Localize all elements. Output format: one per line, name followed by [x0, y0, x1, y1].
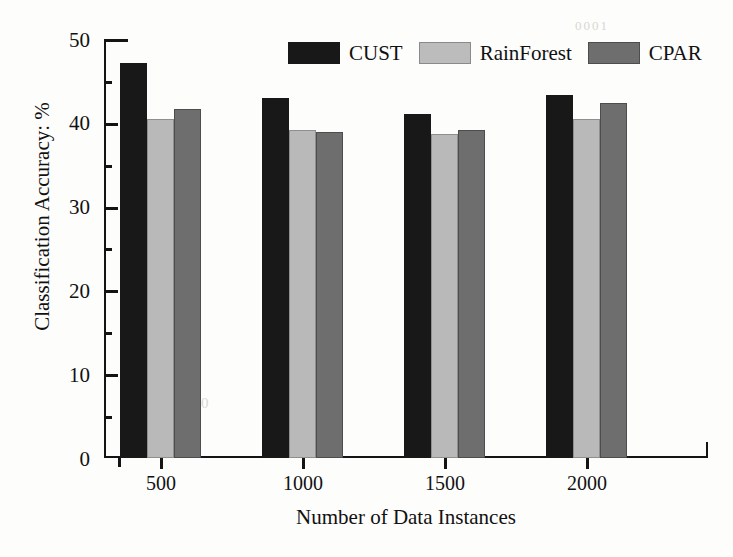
x-tick-1500	[444, 458, 447, 469]
x-tick-label-500: 500	[116, 472, 206, 495]
x-tick-label-2000: 2000	[542, 472, 632, 495]
legend-label-rainforest: RainForest	[480, 41, 572, 66]
bar-cust-1500	[404, 114, 431, 458]
bar-cpar-2000	[600, 103, 627, 458]
scan-artifact-top-right: 0001	[575, 18, 609, 34]
y-tick-label-0: 0	[30, 449, 90, 470]
chart-page: 0001 000 Classification Accuracy: % 50 4…	[0, 0, 733, 557]
bar-rainforest-500	[147, 119, 174, 458]
bar-rainforest-2000	[573, 119, 600, 458]
bar-rainforest-1500	[431, 134, 458, 458]
bar-rainforest-1000	[289, 130, 316, 459]
bar-cust-500	[120, 63, 147, 459]
legend-entry-cust: CUST	[288, 41, 403, 66]
legend-swatch-cust-icon	[288, 42, 340, 64]
bar-cpar-500	[174, 109, 201, 458]
legend-label-cust: CUST	[349, 41, 403, 66]
x-tick-2000	[586, 458, 589, 469]
legend-swatch-cpar-icon	[588, 42, 640, 64]
bars-layer	[104, 39, 708, 458]
x-tick-origin	[118, 458, 121, 467]
legend-entry-cpar: CPAR	[588, 41, 702, 66]
x-tick-500	[160, 458, 163, 469]
legend-entry-rainforest: RainForest	[419, 41, 572, 66]
bar-cpar-1500	[458, 130, 485, 459]
y-tick-label-40: 40	[30, 113, 90, 134]
y-tick-label-10: 10	[30, 365, 90, 386]
x-tick-label-1000: 1000	[258, 472, 348, 495]
bar-cust-1000	[262, 98, 289, 458]
y-tick-label-50: 50	[30, 30, 90, 51]
y-tick-label-20: 20	[30, 281, 90, 302]
x-axis-title: Number of Data Instances	[104, 505, 708, 530]
legend-label-cpar: CPAR	[649, 41, 702, 66]
bar-cust-2000	[546, 95, 573, 458]
x-tick-label-1500: 1500	[400, 472, 490, 495]
x-tick-1000	[302, 458, 305, 469]
y-tick-label-30: 30	[30, 197, 90, 218]
bar-cpar-1000	[316, 132, 343, 458]
legend-swatch-rainforest-icon	[419, 42, 471, 64]
chart-legend: CUST RainForest CPAR	[288, 40, 702, 66]
